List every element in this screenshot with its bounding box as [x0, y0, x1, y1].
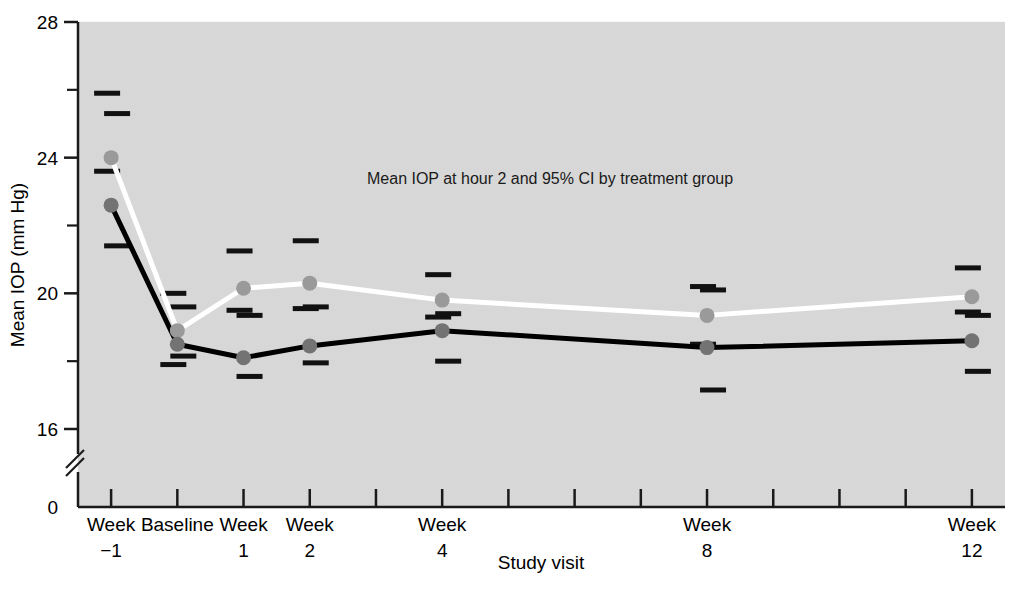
data-point [302, 338, 317, 353]
data-point [964, 333, 979, 348]
x-tick-label: Baseline [141, 514, 214, 535]
data-point [435, 323, 450, 338]
data-point [236, 281, 251, 296]
data-point [700, 340, 715, 355]
x-tick-label-line2: 8 [702, 540, 713, 561]
x-tick-label: Week [948, 514, 997, 535]
y-tick-label: 24 [37, 148, 59, 169]
y-tick-label: 16 [37, 419, 58, 440]
iop-line-chart: 162024280 Week−1BaselineWeek1Week2Week4W… [0, 0, 1028, 596]
y-tick-label: 20 [37, 283, 58, 304]
y-axis: 162024280 [37, 12, 78, 518]
data-point [700, 308, 715, 323]
x-axis-title: Study visit [498, 552, 585, 573]
x-tick-label-line2: 2 [304, 540, 315, 561]
data-point [236, 350, 251, 365]
data-point [104, 198, 119, 213]
data-point [964, 289, 979, 304]
chart-page: 162024280 Week−1BaselineWeek1Week2Week4W… [0, 0, 1028, 596]
x-tick-label: Week [683, 514, 732, 535]
y-tick-label-zero: 0 [47, 497, 58, 518]
data-point [170, 337, 185, 352]
x-tick-label-line2: 1 [238, 540, 249, 561]
data-point [170, 323, 185, 338]
data-point [302, 276, 317, 291]
x-tick-label: Week [219, 514, 268, 535]
x-tick-label: Week [87, 514, 136, 535]
chart-annotation: Mean IOP at hour 2 and 95% CI by treatme… [367, 170, 733, 187]
x-tick-label: Week [286, 514, 335, 535]
x-tick-label-line2: 4 [437, 540, 448, 561]
y-axis-title: Mean IOP (mm Hg) [7, 183, 28, 347]
x-tick-label-line2: −1 [100, 540, 122, 561]
y-tick-label: 28 [37, 12, 58, 33]
data-point [435, 293, 450, 308]
x-tick-label-line2: 12 [961, 540, 982, 561]
x-tick-label: Week [418, 514, 467, 535]
data-point [104, 150, 119, 165]
